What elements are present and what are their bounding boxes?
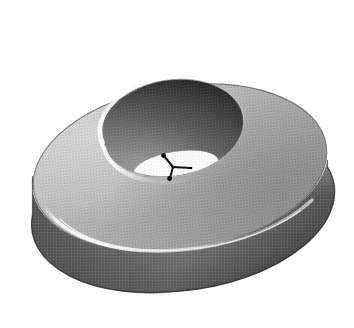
render-canvas: 3D shaded annulus (washer / ring) render… [0, 0, 354, 328]
annulus-3d-illustration [0, 0, 354, 328]
